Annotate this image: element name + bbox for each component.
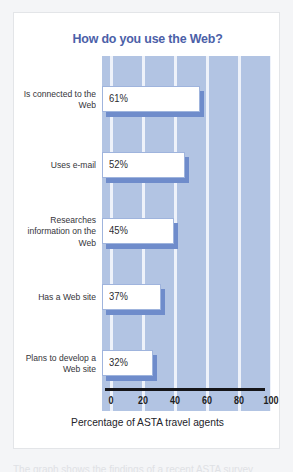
category-label: Researches information on the Web: [22, 214, 96, 249]
bars-layer: 61%52%45%37%32%: [102, 56, 271, 411]
bar-value-label: 45%: [109, 224, 128, 236]
page-title: How do you use the Web?: [25, 31, 271, 46]
x-axis-tick-labels: 020406080100: [102, 395, 271, 409]
bar-group: 52%: [102, 152, 191, 183]
bar-value-label: 52%: [109, 158, 128, 170]
tick-label: 40: [170, 395, 180, 406]
bar-value-label: 32%: [109, 356, 128, 368]
category-label: Uses e-mail: [22, 159, 96, 171]
bar-group: 32%: [102, 350, 159, 381]
caption-cutoff: The graph shows the findings of a recent…: [13, 464, 280, 472]
bar-group: 45%: [102, 218, 180, 249]
bar-group: 37%: [102, 284, 167, 315]
category-label: Plans to develop a Web site: [22, 352, 96, 375]
category-label: Is connected to the Web: [22, 88, 96, 111]
x-axis-title: Percentage of ASTA travel agents: [23, 416, 271, 428]
bar-group: 61%: [102, 86, 206, 117]
category-label: Has a Web site: [22, 291, 96, 303]
tick-label: 20: [138, 395, 148, 406]
tick-label: 0: [108, 395, 113, 406]
tick-label: 60: [202, 395, 212, 406]
chart-card: How do you use the Web? 61%52%45%37%32% …: [13, 12, 280, 449]
tick-label: 100: [263, 395, 278, 406]
category-axis-labels: Is connected to the WebUses e-mailResear…: [14, 56, 96, 411]
bar-value-label: 61%: [109, 92, 128, 104]
x-axis-line: [105, 388, 265, 391]
tick-label: 80: [234, 395, 244, 406]
bar-value-label: 37%: [109, 290, 128, 302]
